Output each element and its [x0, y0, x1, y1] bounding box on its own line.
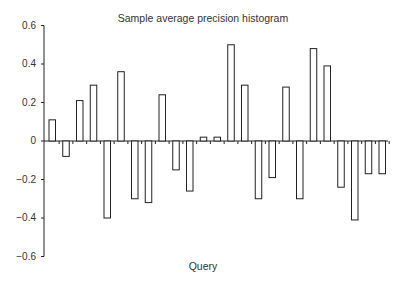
- bar: [90, 85, 97, 141]
- bar: [338, 141, 345, 187]
- bar: [228, 45, 235, 141]
- bar: [187, 141, 194, 191]
- bar-chart: [0, 0, 406, 284]
- bar: [77, 101, 84, 141]
- bar: [145, 141, 152, 203]
- bar: [365, 141, 372, 174]
- bar: [104, 141, 111, 218]
- bar: [159, 95, 166, 141]
- bar: [255, 141, 262, 199]
- bar: [352, 141, 359, 220]
- bar: [283, 87, 290, 141]
- bar: [214, 137, 221, 141]
- bar: [63, 141, 70, 156]
- bar: [310, 49, 317, 141]
- bar: [118, 72, 125, 141]
- bar: [200, 137, 207, 141]
- bar: [49, 120, 56, 141]
- bar: [379, 141, 386, 174]
- bar: [242, 85, 249, 141]
- bar: [132, 141, 139, 199]
- bar: [269, 141, 276, 178]
- bar: [324, 66, 331, 141]
- bar: [297, 141, 304, 199]
- bar: [173, 141, 180, 170]
